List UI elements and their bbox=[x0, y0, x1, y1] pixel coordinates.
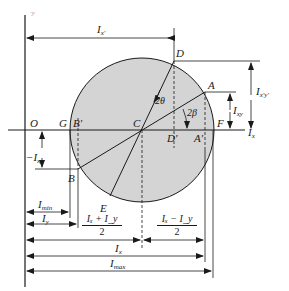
point-F: F bbox=[217, 118, 224, 129]
point-C: C bbox=[133, 118, 140, 129]
angle-2theta-label: 2θ bbox=[155, 96, 165, 106]
mohrs-circle-diagram: ·y Ix O G B′ C D′ A′ F D A B E 2θ 2β Ix′… bbox=[0, 0, 289, 291]
label-Imin: Imin bbox=[38, 199, 52, 212]
diagram-graphics bbox=[0, 0, 289, 291]
vertical-axis-label: ·y bbox=[30, 10, 35, 17]
point-O: O bbox=[30, 118, 38, 129]
label-Iy: Iy bbox=[42, 213, 49, 226]
label-Imax: Imax bbox=[110, 258, 125, 271]
angle-2beta-label: 2β bbox=[187, 108, 197, 118]
label-Ixprimeyprime: Ix′y′ bbox=[256, 86, 269, 99]
label-diff-half: Iₓ − I_y2 bbox=[157, 214, 197, 237]
label-sum-half: Iₓ + I_y2 bbox=[82, 214, 122, 237]
label-Ixy: Ixy bbox=[233, 105, 243, 118]
point-G: G bbox=[59, 118, 67, 129]
label-neg-Ixy: −Ixy bbox=[26, 152, 43, 165]
label-Ixprime: Ix′ bbox=[97, 24, 105, 37]
label-Ix: Ix bbox=[115, 243, 122, 256]
horizontal-axis-label: Ix bbox=[248, 127, 255, 140]
point-A-prime: A′ bbox=[194, 133, 203, 144]
point-A: A bbox=[208, 80, 215, 91]
point-B-prime: B′ bbox=[73, 118, 82, 129]
point-D: D bbox=[176, 48, 184, 59]
point-B: B bbox=[68, 173, 75, 184]
point-D-prime: D′ bbox=[167, 133, 177, 144]
